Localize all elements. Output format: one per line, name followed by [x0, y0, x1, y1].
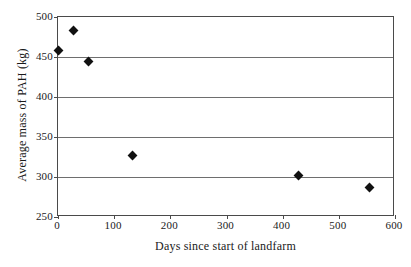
x-tick-label-0: 0 — [27, 220, 87, 231]
x-tick-label-400: 400 — [252, 220, 312, 231]
y-tick-mark-450 — [54, 57, 58, 58]
x-axis-tick-labels: 0100200300400500600 — [57, 220, 394, 234]
y-tick-label-400: 400 — [7, 91, 53, 102]
x-axis-title: Days since start of landfarm — [57, 239, 394, 253]
x-tick-label-600: 600 — [364, 220, 411, 231]
x-tick-label-300: 300 — [196, 220, 256, 231]
data-point — [293, 170, 303, 180]
y-tick-label-500: 500 — [7, 11, 53, 22]
x-tick-label-500: 500 — [308, 220, 368, 231]
y-tick-mark-400 — [54, 97, 58, 98]
y-axis-tick-labels: 250300350400450500 — [0, 16, 53, 216]
y-tick-mark-350 — [54, 137, 58, 138]
y-tick-label-300: 300 — [7, 171, 53, 182]
data-point — [84, 57, 94, 67]
x-tick-label-100: 100 — [83, 220, 143, 231]
y-tick-label-450: 450 — [7, 51, 53, 62]
data-point — [53, 46, 63, 56]
data-point — [69, 26, 79, 36]
x-tick-label-200: 200 — [139, 220, 199, 231]
y-tick-mark-300 — [54, 177, 58, 178]
gridline-y-350 — [58, 137, 393, 138]
gridline-y-300 — [58, 177, 393, 178]
plot-area — [57, 16, 394, 216]
gridline-y-400 — [58, 97, 393, 98]
y-tick-label-350: 350 — [7, 131, 53, 142]
scatter-chart-figure: Average mass of PAH (kg) 250300350400450… — [0, 0, 411, 267]
gridline-y-450 — [58, 57, 393, 58]
data-point — [128, 150, 138, 160]
y-tick-mark-500 — [54, 17, 58, 18]
data-point — [365, 182, 375, 192]
